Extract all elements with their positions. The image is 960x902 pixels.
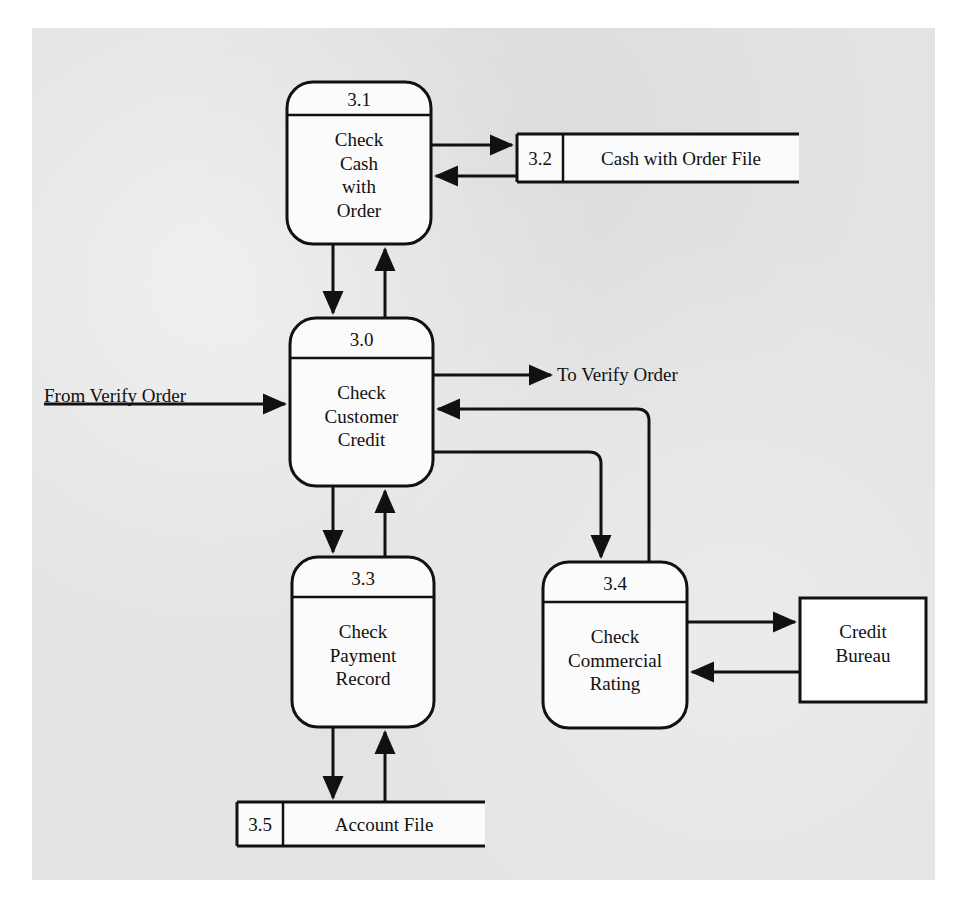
flow-3-0-to-3-4 bbox=[433, 452, 601, 557]
data-flow-diagram-canvas bbox=[0, 0, 960, 902]
flow-label-from-verify-order: From Verify Order bbox=[44, 385, 186, 407]
data-store-3-5-shape[interactable] bbox=[237, 802, 485, 846]
process-3-1-shape[interactable] bbox=[287, 82, 431, 244]
flow-label-to-verify-order: To Verify Order bbox=[557, 364, 678, 386]
process-3-0-shape[interactable] bbox=[290, 318, 433, 486]
process-3-4-shape[interactable] bbox=[543, 562, 687, 728]
process-3-3-shape[interactable] bbox=[292, 557, 434, 727]
diagram-page: 3.1 Check Cash with Order 3.0 Check Cust… bbox=[0, 0, 960, 902]
flow-3-4-to-3-0 bbox=[438, 409, 649, 562]
external-entity-credit-bureau-shape[interactable] bbox=[800, 598, 926, 702]
data-store-3-2-shape[interactable] bbox=[517, 134, 799, 182]
